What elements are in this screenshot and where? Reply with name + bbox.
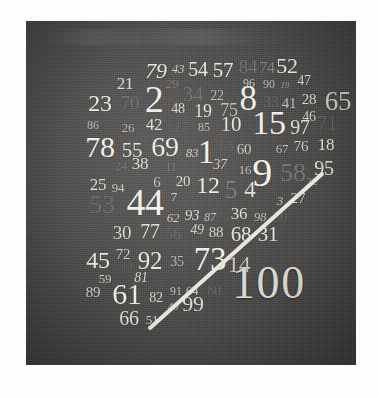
number-82: 82 bbox=[149, 291, 163, 305]
number-19: 19 bbox=[194, 102, 212, 120]
number-71: 71 bbox=[317, 113, 338, 134]
poster-artwork: 7943545784745221299690194723702342283341… bbox=[0, 0, 379, 398]
number-1: 1 bbox=[198, 135, 215, 169]
number-89: 89 bbox=[86, 285, 101, 300]
number-10: 10 bbox=[122, 260, 133, 271]
number-83: 83 bbox=[186, 146, 199, 159]
number-99: 99 bbox=[182, 293, 204, 315]
number-21: 21 bbox=[117, 75, 134, 92]
number-60: 60 bbox=[237, 142, 252, 157]
number-43: 43 bbox=[172, 62, 185, 75]
number-76: 76 bbox=[294, 139, 309, 154]
number-85: 85 bbox=[198, 121, 210, 133]
number-52: 52 bbox=[276, 55, 298, 77]
number-3: 3 bbox=[277, 194, 283, 207]
number-27: 27 bbox=[291, 191, 306, 206]
number-56: 56 bbox=[165, 226, 181, 242]
number-18: 18 bbox=[318, 136, 335, 153]
number-38: 38 bbox=[132, 155, 149, 172]
number-61: 61 bbox=[112, 279, 141, 309]
number-69: 69 bbox=[151, 133, 178, 161]
number-57: 57 bbox=[213, 60, 234, 81]
number-28: 28 bbox=[302, 92, 317, 107]
number-4: 4 bbox=[244, 178, 255, 201]
number-90: 90 bbox=[263, 78, 275, 90]
number-35: 35 bbox=[170, 255, 184, 269]
number-36: 36 bbox=[231, 205, 248, 222]
number-97: 97 bbox=[290, 117, 310, 137]
number-44: 44 bbox=[126, 183, 163, 221]
number-84: 84 bbox=[239, 57, 258, 76]
number-20: 20 bbox=[176, 174, 191, 189]
number-16: 16 bbox=[239, 163, 252, 176]
number-92: 92 bbox=[138, 248, 163, 273]
number-53: 53 bbox=[89, 192, 114, 218]
number-15: 15 bbox=[252, 106, 285, 140]
number-87: 87 bbox=[204, 211, 216, 223]
number-93: 93 bbox=[185, 208, 200, 223]
number-74: 74 bbox=[259, 60, 275, 76]
number-91: 91 bbox=[170, 285, 182, 297]
number-67: 67 bbox=[276, 142, 289, 155]
number-58: 58 bbox=[280, 160, 305, 186]
number-88: 88 bbox=[209, 225, 224, 240]
number-47: 47 bbox=[297, 74, 311, 88]
number-78: 78 bbox=[85, 132, 114, 162]
number-80: 80 bbox=[207, 284, 221, 298]
number-24: 24 bbox=[115, 159, 128, 172]
number-45: 45 bbox=[86, 248, 110, 272]
number-29: 29 bbox=[166, 77, 179, 90]
number-42: 42 bbox=[146, 116, 163, 133]
number-37: 37 bbox=[213, 158, 227, 172]
number-66: 66 bbox=[119, 308, 139, 328]
dark-number-panel: 7943545784745221299690194723702342283341… bbox=[26, 21, 356, 365]
number-10: 10 bbox=[221, 114, 242, 135]
number-73: 73 bbox=[194, 243, 226, 276]
number-32: 32 bbox=[307, 176, 318, 187]
number-7: 7 bbox=[171, 190, 177, 203]
number-31: 31 bbox=[258, 224, 279, 245]
number-26: 26 bbox=[122, 121, 135, 134]
number-5: 5 bbox=[225, 177, 237, 202]
number-77: 77 bbox=[140, 221, 160, 241]
number-40: 40 bbox=[168, 301, 179, 312]
number-48: 48 bbox=[171, 102, 185, 116]
number-49: 49 bbox=[190, 223, 204, 237]
number-62: 62 bbox=[167, 211, 180, 224]
number-68: 68 bbox=[231, 224, 252, 245]
number-cloud: 7943545784745221299690194723702342283341… bbox=[26, 21, 356, 365]
number-23: 23 bbox=[88, 91, 112, 115]
number-51: 51 bbox=[146, 313, 159, 326]
number-70: 70 bbox=[121, 93, 140, 112]
number-63: 63 bbox=[219, 139, 234, 154]
number-11: 11 bbox=[165, 161, 176, 173]
hundred-label: 100 bbox=[232, 256, 306, 309]
number-54: 54 bbox=[188, 59, 208, 79]
number-30: 30 bbox=[113, 223, 132, 242]
number-19: 19 bbox=[281, 81, 290, 90]
number-12: 12 bbox=[196, 173, 220, 197]
number-2: 2 bbox=[145, 80, 164, 118]
